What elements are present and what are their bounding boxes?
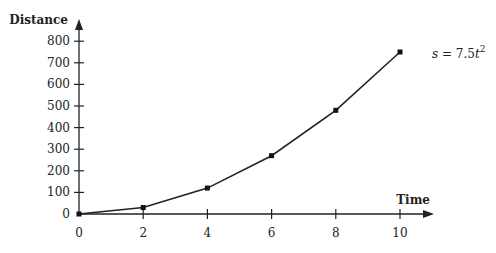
equation-annotation: s = 7.5t2 xyxy=(432,44,486,61)
distance-time-chart: 0100200300400500600700800 0246810 Distan… xyxy=(0,0,496,253)
data-point-marker xyxy=(77,212,82,217)
x-tick-label: 10 xyxy=(392,226,407,240)
x-tick-label: 0 xyxy=(75,226,83,240)
x-tick-label: 4 xyxy=(204,226,212,240)
data-point-marker xyxy=(269,153,274,158)
data-point-marker xyxy=(333,108,338,113)
y-axis-label: Distance xyxy=(9,13,68,27)
y-tick-label: 800 xyxy=(47,34,70,48)
x-tick-label: 8 xyxy=(332,226,340,240)
y-tick-label: 500 xyxy=(47,99,70,113)
x-axis-label: Time xyxy=(396,193,430,207)
y-tick-label: 200 xyxy=(47,164,70,178)
data-point-marker xyxy=(205,186,210,191)
data-line xyxy=(79,52,400,214)
x-tick-label: 2 xyxy=(139,226,147,240)
y-tick-label: 100 xyxy=(47,185,70,199)
y-tick-label: 0 xyxy=(62,207,70,221)
y-axis-arrow-icon xyxy=(75,19,83,30)
y-tick-label: 400 xyxy=(47,121,70,135)
y-tick-label: 300 xyxy=(47,142,70,156)
x-tick-label: 6 xyxy=(268,226,276,240)
y-tick-label: 700 xyxy=(47,56,70,70)
data-point-marker xyxy=(141,205,146,210)
data-point-marker xyxy=(398,50,403,55)
x-axis-arrow-icon xyxy=(423,210,434,218)
data-points xyxy=(77,50,403,217)
y-tick-label: 600 xyxy=(47,77,70,91)
